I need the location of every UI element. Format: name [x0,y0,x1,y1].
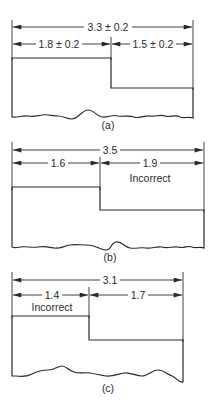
right-dimension-text: 1.9 [143,157,158,169]
stepped-part-outline [12,187,204,250]
figure-caption: (b) [104,251,117,263]
dimensioning-diagrams: 3.3 ± 0.2 1.8 ± 0.2 1.5 ± 0.2 (a) 3.5 1.… [0,0,211,406]
stepped-part-outline [12,316,183,382]
left-dimension-text: 1.4 [45,289,60,301]
left-dimension-text: 1.6 [51,157,66,169]
incorrect-note: Incorrect [130,172,171,184]
figure-c: 3.1 1.4 Incorrect 1.7 (c) [12,272,183,394]
overall-dimension-text: 3.3 ± 0.2 [88,21,129,33]
stepped-part-outline [12,58,193,119]
figure-b: 3.5 1.6 1.9 Incorrect (b) [12,142,204,263]
figure-caption: (c) [102,382,114,394]
right-dimension-text: 1.5 ± 0.2 [133,38,174,50]
incorrect-note: Incorrect [32,301,73,313]
figure-caption: (a) [102,119,115,131]
left-dimension-text: 1.8 ± 0.2 [39,38,80,50]
overall-dimension-text: 3.1 [103,274,118,286]
overall-dimension-text: 3.5 [103,144,118,156]
right-dimension-text: 1.7 [131,289,146,301]
figure-a: 3.3 ± 0.2 1.8 ± 0.2 1.5 ± 0.2 (a) [12,20,193,131]
